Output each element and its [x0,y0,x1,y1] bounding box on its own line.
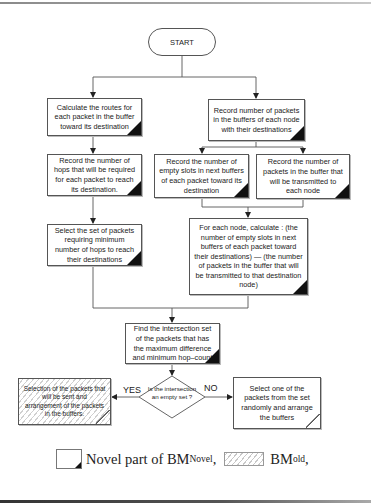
box-text: Select the set of packets requiring mini… [52,226,137,264]
box-text: Calculate the routes for each packet in … [52,103,137,132]
legend-old-label: BM [270,451,293,468]
box-select-random: Select one of the packets from the set r… [233,377,321,429]
box-select-min-hops: Select the set of packets requiring mini… [47,224,142,266]
box-text: Select one of the packets from the set r… [238,384,316,422]
box-record-empty-slots: Record the number of empty slots in next… [154,154,249,198]
novel-corner-icon [127,251,141,265]
novel-corner-icon [205,349,219,363]
legend-novel-suffix: , [213,451,217,468]
legend-novel-sub: Novel [190,454,213,464]
novel-corner-icon [335,184,349,198]
old-corner-icon [306,414,320,428]
novel-corner-icon [127,121,141,135]
box-text: For each node, calculate : (the number o… [194,223,303,290]
box-calculate-routes: Calculate the routes for each packet in … [47,98,142,136]
box-record-hops: Record the number of hops that will be r… [47,154,142,196]
legend-old-swatch-icon [224,452,264,466]
box-select-arrange-old: Selection of the packets that will be se… [18,378,111,425]
box-calculate-difference: For each node, calculate : (the number o… [189,218,308,295]
old-corner-icon [96,410,110,424]
box-text: Record the number of packets in the buff… [261,157,345,195]
novel-corner-icon [234,183,248,197]
legend-novel-label: Novel part of BM [86,451,190,468]
legend-novel-swatch-icon [56,449,82,469]
box-text: Record the number of hops that will be r… [52,156,137,194]
start-label: START [170,38,194,47]
box-text: Record number of packets in the buffers … [213,106,300,135]
legend: Novel part of BMNovel, BMold, [56,447,309,471]
legend-old-suffix: , [305,451,309,468]
box-find-intersection: Find the intersection set of the packets… [125,323,220,364]
start-terminal: START [148,28,216,56]
no-label: NO [204,383,218,393]
novel-corner-icon [127,181,141,195]
yes-label: YES [123,385,141,395]
legend-old-sub: old [293,454,305,464]
box-text: Record the number of empty slots in next… [159,157,244,195]
box-record-packets: Record number of packets in the buffers … [208,99,305,141]
box-record-transmitted: Record the number of packets in the buff… [256,154,350,199]
box-text: Selection of the packets that will be se… [23,385,106,419]
novel-corner-icon [290,126,304,140]
box-text: Find the intersection set of the packets… [130,324,215,362]
decision-text: Is the intersection an empty set ? [146,385,198,400]
novel-corner-icon [293,280,307,294]
